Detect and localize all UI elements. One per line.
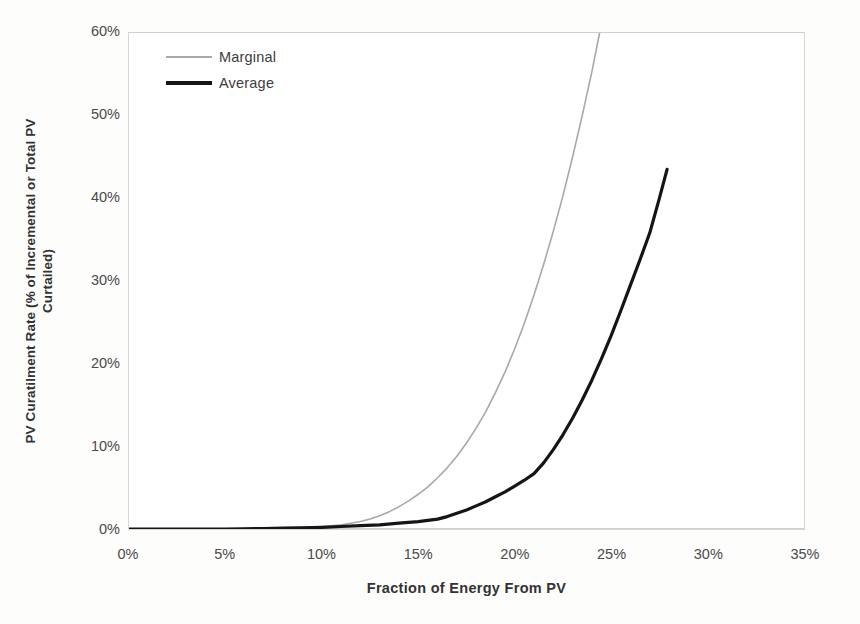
y-tick-label: 40%: [60, 189, 120, 205]
y-axis-title: PV Curatilment Rate (% of Incremental or…: [22, 32, 62, 530]
x-tick-label: 0%: [98, 546, 158, 562]
legend-line-average-icon: [166, 81, 212, 85]
chart-legend: Marginal Average: [166, 44, 276, 96]
x-axis-title: Fraction of Energy From PV: [128, 580, 805, 596]
y-tick-label: 20%: [60, 355, 120, 371]
series-line-marginal: [129, 33, 600, 529]
legend-label-average: Average: [219, 75, 274, 91]
y-tick-label: 10%: [60, 438, 120, 454]
x-tick-label: 20%: [485, 546, 545, 562]
plot-area: [128, 32, 805, 530]
x-tick-label: 25%: [582, 546, 642, 562]
plot-canvas: [129, 33, 804, 529]
x-tick-label: 35%: [775, 546, 835, 562]
y-tick-label: 60%: [60, 23, 120, 39]
y-tick-label: 30%: [60, 272, 120, 288]
x-tick-label: 10%: [291, 546, 351, 562]
legend-item-marginal: Marginal: [166, 44, 276, 70]
legend-line-marginal-icon: [166, 56, 212, 58]
page-background: 0%10%20%30%40%50%60% 0%5%10%15%20%25%30%…: [0, 0, 860, 624]
y-axis-title-line1: PV Curatilment Rate (% of Incremental or…: [22, 32, 39, 530]
x-tick-label: 30%: [678, 546, 738, 562]
y-axis-title-line2: Curtailed): [39, 32, 56, 530]
legend-label-marginal: Marginal: [219, 49, 276, 65]
y-tick-label: 50%: [60, 106, 120, 122]
series-line-average: [129, 169, 667, 529]
legend-item-average: Average: [166, 70, 276, 96]
y-tick-label: 0%: [60, 521, 120, 537]
x-tick-label: 15%: [388, 546, 448, 562]
chart-figure: 0%10%20%30%40%50%60% 0%5%10%15%20%25%30%…: [0, 0, 860, 624]
x-tick-label: 5%: [195, 546, 255, 562]
